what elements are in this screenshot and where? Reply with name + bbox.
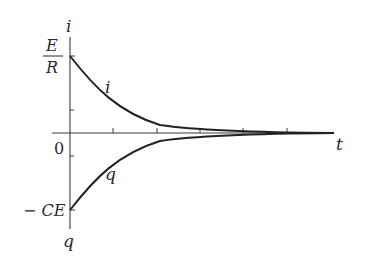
charge-curve-label: q (105, 164, 116, 184)
y-axis-bottom-label: q (63, 231, 74, 251)
x-axis-label: t (336, 134, 343, 154)
minus-ce-label: − CE (23, 201, 66, 220)
svg-text:E: E (45, 36, 58, 55)
e-over-r-label: E R (43, 36, 63, 77)
y-axis-top-label: i (66, 16, 71, 36)
origin-label: 0 (54, 139, 64, 158)
current-curve-label: i (105, 77, 110, 97)
rc-decay-diagram: i q t 0 E R − CE i q (0, 0, 365, 273)
svg-text:R: R (45, 58, 58, 77)
